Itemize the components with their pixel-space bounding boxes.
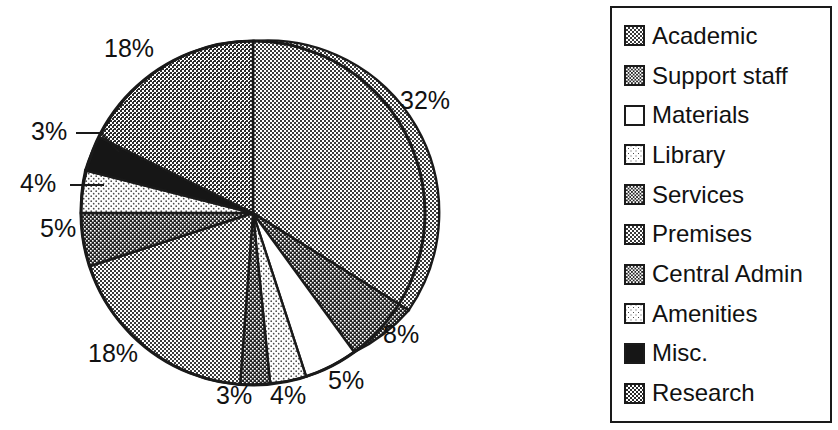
legend-swatch-dots-faint-icon: [624, 303, 645, 324]
legend-swatch-check-medium-icon: [624, 383, 645, 404]
legend-item-academic[interactable]: Academic: [612, 16, 830, 56]
legend-label-premises: Premises: [652, 222, 752, 246]
pct-label-support-staff: 8%: [383, 322, 419, 347]
legend-label-misc: Misc.: [652, 341, 708, 365]
legend-box: Academic Support staff Materials Library…: [610, 6, 832, 423]
legend-item-library[interactable]: Library: [612, 135, 830, 175]
legend-item-support-staff[interactable]: Support staff: [612, 56, 830, 96]
legend-item-central-admin[interactable]: Central Admin: [612, 254, 830, 294]
legend-swatch-check-dark-icon: [624, 184, 645, 205]
legend-label-support-staff: Support staff: [652, 64, 788, 88]
pct-label-misc: 3%: [31, 119, 67, 144]
pct-label-materials: 5%: [328, 368, 364, 393]
pct-label-research: 18%: [104, 36, 154, 61]
legend-item-research[interactable]: Research: [612, 373, 830, 413]
legend-swatch-dots-faint-icon: [624, 144, 645, 165]
legend-label-central-admin: Central Admin: [652, 262, 803, 286]
pie-chart-figure: 18% 32% 3% 4% 5% 18% 3% 4% 5% 8% Academi…: [0, 0, 838, 430]
legend-swatch-solid-black-icon: [624, 343, 645, 364]
legend-label-academic: Academic: [652, 24, 757, 48]
legend-item-materials[interactable]: Materials: [612, 95, 830, 135]
legend-item-amenities[interactable]: Amenities: [612, 294, 830, 334]
pie-chart-area: 18% 32% 3% 4% 5% 18% 3% 4% 5% 8%: [0, 0, 600, 430]
legend-swatch-check-light-icon: [624, 224, 645, 245]
legend-item-services[interactable]: Services: [612, 175, 830, 215]
legend-label-services: Services: [652, 183, 744, 207]
legend-label-materials: Materials: [652, 103, 749, 127]
pct-label-premises: 18%: [88, 341, 138, 366]
pct-label-library: 4%: [270, 383, 306, 408]
legend-swatch-solid-white-icon: [624, 105, 645, 126]
legend-label-research: Research: [652, 381, 755, 405]
pct-label-academic: 32%: [400, 88, 450, 113]
legend-swatch-check-light-icon: [624, 25, 645, 46]
legend-swatch-check-dark-icon: [624, 264, 645, 285]
pct-label-amenities: 4%: [20, 171, 56, 196]
legend-swatch-check-dark-icon: [624, 65, 645, 86]
legend-list: Academic Support staff Materials Library…: [612, 16, 830, 413]
pct-label-services: 3%: [216, 383, 252, 408]
pct-label-central-admin: 5%: [40, 216, 76, 241]
legend-item-premises[interactable]: Premises: [612, 215, 830, 255]
legend-label-amenities: Amenities: [652, 302, 757, 326]
legend-label-library: Library: [652, 143, 725, 167]
legend-item-misc[interactable]: Misc.: [612, 334, 830, 374]
